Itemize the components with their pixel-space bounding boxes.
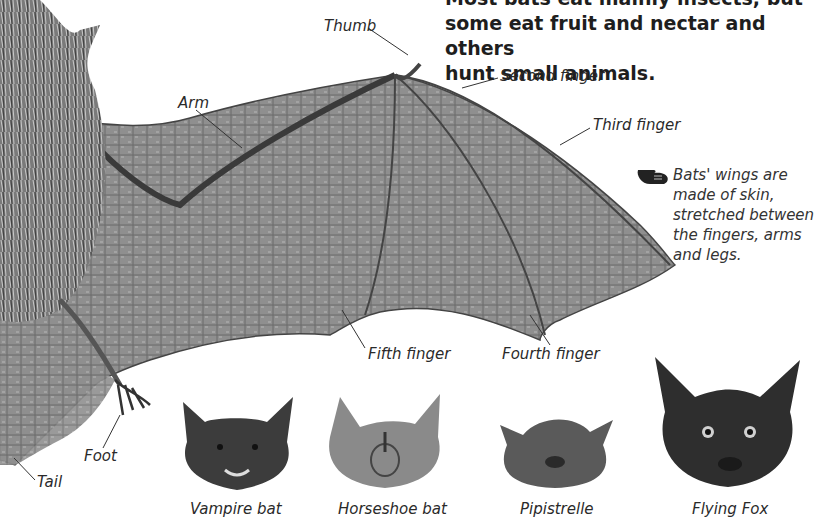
flying-fox-head <box>650 352 805 492</box>
label-tail: Tail <box>37 473 62 491</box>
intro-line-2: some eat fruit and nectar and others <box>445 12 766 59</box>
horseshoe-bat-head <box>320 392 450 492</box>
label-foot: Foot <box>84 447 117 465</box>
label-fifth-finger: Fifth finger <box>368 345 450 363</box>
wing-note: Bats' wings are made of skin, stretched … <box>673 165 814 265</box>
caption-horseshoe-bat: Horseshoe bat <box>338 500 447 518</box>
label-arm: Arm <box>178 94 209 112</box>
vampire-bat-head <box>175 392 300 492</box>
label-fourth-finger: Fourth finger <box>502 345 600 363</box>
pointing-hand-icon <box>636 164 670 186</box>
label-third-finger: Third finger <box>593 116 680 134</box>
caption-pipistrelle: Pipistrelle <box>520 500 594 518</box>
pipistrelle-head <box>495 400 615 490</box>
label-second-finger: Second finger <box>500 67 604 85</box>
intro-line-1: Most bats eat mainly insects, but <box>445 0 803 9</box>
foot-claws <box>115 380 150 415</box>
caption-vampire-bat: Vampire bat <box>190 500 282 518</box>
label-thumb: Thumb <box>324 17 376 35</box>
caption-flying-fox: Flying Fox <box>692 500 768 518</box>
